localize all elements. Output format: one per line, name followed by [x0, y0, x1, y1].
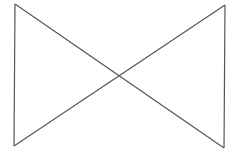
diagonal-up-line — [14, 5, 225, 146]
right-edge-line — [224, 5, 225, 148]
bowtie-diagram — [0, 0, 241, 155]
left-edge-line — [14, 4, 15, 146]
diagram-canvas — [0, 0, 241, 155]
